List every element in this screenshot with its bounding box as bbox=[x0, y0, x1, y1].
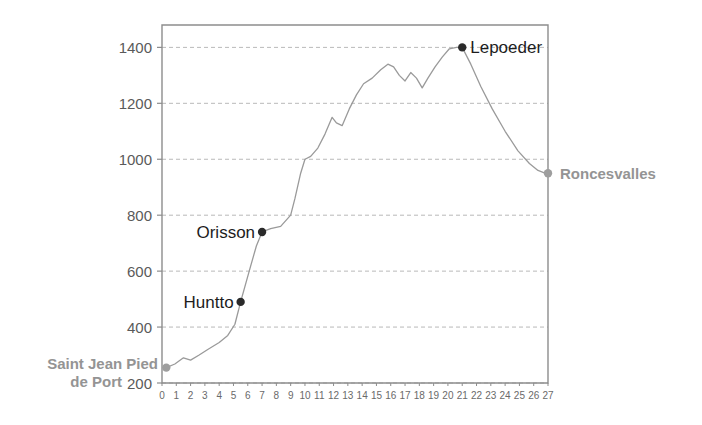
x-tick-label-25: 25 bbox=[514, 390, 526, 401]
y-tick-label-1000: 1000 bbox=[119, 151, 152, 168]
x-tick-label-2: 2 bbox=[188, 390, 194, 401]
waypoint-label-orisson: Orisson bbox=[196, 223, 255, 242]
y-tick-label-1200: 1200 bbox=[119, 95, 152, 112]
x-tick-label-22: 22 bbox=[471, 390, 483, 401]
x-tick-label-1: 1 bbox=[174, 390, 180, 401]
x-tick-label-10: 10 bbox=[299, 390, 311, 401]
x-tick-label-0: 0 bbox=[159, 390, 165, 401]
waypoint-label-saint-jean-line1: Saint Jean Pied bbox=[47, 355, 158, 372]
waypoint-label-lepoeder: Lepoeder bbox=[470, 38, 542, 57]
waypoint-label-huntto: Huntto bbox=[184, 293, 234, 312]
x-tick-label-9: 9 bbox=[288, 390, 294, 401]
x-tick-label-3: 3 bbox=[202, 390, 208, 401]
x-tick-label-19: 19 bbox=[428, 390, 440, 401]
x-tick-label-26: 26 bbox=[528, 390, 540, 401]
waypoint-label-saint-jean-line2: de Port bbox=[70, 373, 122, 390]
y-tick-label-200: 200 bbox=[127, 375, 152, 392]
x-tick-label-16: 16 bbox=[385, 390, 397, 401]
x-tick-label-15: 15 bbox=[371, 390, 383, 401]
x-tick-label-27: 27 bbox=[542, 390, 554, 401]
x-tick-label-6: 6 bbox=[245, 390, 251, 401]
x-tick-label-14: 14 bbox=[357, 390, 369, 401]
elevation-profile-chart: 1400 1200 1000 800 600 400 200 Saint Jea… bbox=[0, 0, 702, 425]
x-tick-label-13: 13 bbox=[342, 390, 354, 401]
x-tick-label-8: 8 bbox=[274, 390, 280, 401]
y-tick-label-600: 600 bbox=[127, 263, 152, 280]
x-tick-label-18: 18 bbox=[414, 390, 426, 401]
x-tick-label-12: 12 bbox=[328, 390, 340, 401]
x-tick-label-23: 23 bbox=[485, 390, 497, 401]
waypoint-label-roncesvalles: Roncesvalles bbox=[560, 165, 656, 182]
x-tick-label-17: 17 bbox=[399, 390, 411, 401]
y-tick-label-800: 800 bbox=[127, 207, 152, 224]
y-tick-label-1400: 1400 bbox=[119, 39, 152, 56]
x-tick-label-11: 11 bbox=[314, 390, 325, 401]
y-tick-label-400: 400 bbox=[127, 319, 152, 336]
x-tick-label-21: 21 bbox=[457, 390, 469, 401]
x-tick-label-5: 5 bbox=[231, 390, 237, 401]
x-tick-label-4: 4 bbox=[216, 390, 222, 401]
chart-text-layer: 1400 1200 1000 800 600 400 200 Saint Jea… bbox=[0, 0, 702, 425]
x-tick-label-20: 20 bbox=[442, 390, 454, 401]
x-tick-label-24: 24 bbox=[500, 390, 512, 401]
x-tick-label-7: 7 bbox=[259, 390, 265, 401]
